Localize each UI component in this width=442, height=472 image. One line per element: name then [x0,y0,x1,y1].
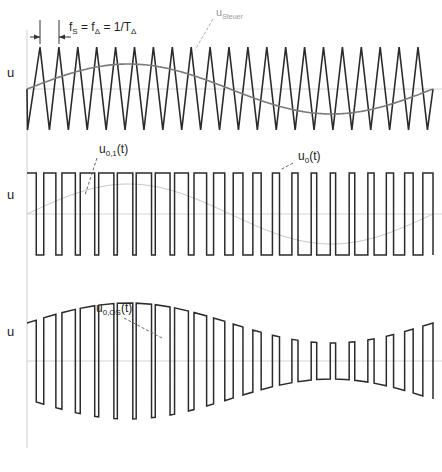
arrow-left-icon [59,35,65,40]
panel-carrier-comparison: u fS = fΔ = 1/TΔ uSteuer [7,6,442,130]
y-axis-label-2: u [7,187,14,202]
pwm-diagram: u fS = fΔ = 1/TΔ uSteuer u u0,1(t) [0,0,442,472]
y-axis-label-1: u [7,65,14,80]
u0-label: u0(t) [298,149,320,165]
panel-pwm-output: u u0,1(t) u0(t) [7,142,442,255]
panel-upper-switch-voltage: u u0,OS(t) [7,301,442,419]
period-dimension-marker [30,20,71,44]
arrow-right-icon [34,35,40,40]
switching-frequency-label: fS = fΔ = 1/TΔ [69,20,137,36]
u01-label: u0,1(t) [99,142,128,158]
u0-leader [280,163,293,170]
u0os-leader [124,318,162,338]
y-axis-label-3: u [7,324,14,339]
control-signal-label: uSteuer [216,6,243,20]
control-label-leader [195,19,213,50]
